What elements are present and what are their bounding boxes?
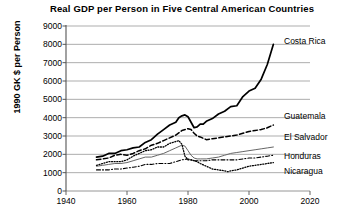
- series-label-el-salvador: El Salvador: [284, 132, 327, 142]
- series-line-honduras: [97, 155, 274, 170]
- series-label-honduras: Honduras: [284, 151, 321, 161]
- series-label-guatemala: Guatemala: [284, 111, 326, 121]
- plot-area: [0, 0, 364, 219]
- series-line-nicaragua: [97, 141, 274, 172]
- series-label-nicaragua: Nicaragua: [284, 166, 323, 176]
- series-line-costa-rica: [97, 44, 274, 157]
- chart-container: Real GDP per Person in Five Central Amer…: [0, 0, 364, 219]
- series-label-costa-rica: Costa Rica: [284, 36, 326, 46]
